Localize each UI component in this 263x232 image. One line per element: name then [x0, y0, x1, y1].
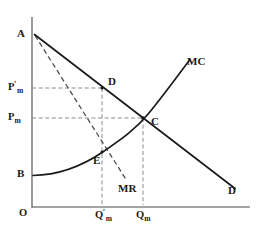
x-tick-label-qm-prime: Q′m	[95, 210, 112, 221]
x-tick-qm-prime-mark: ′	[103, 207, 106, 217]
y-tick-label-pm-prime: P′m	[8, 82, 23, 93]
x-tick-label-qm: Qm	[136, 210, 150, 221]
y-tick-pm-sub: m	[14, 116, 20, 125]
point-label-c: C	[151, 116, 159, 127]
y-tick-label-pm: Pm	[8, 112, 21, 123]
x-tick-qm-sub: m	[144, 214, 150, 223]
curve-label-mc: MC	[187, 56, 205, 67]
point-c-marker	[141, 116, 145, 120]
curve-label-demand: D	[228, 185, 236, 196]
point-label-d: D	[108, 76, 116, 87]
plot-canvas	[0, 0, 263, 232]
curve-label-mr: MR	[118, 183, 136, 194]
x-tick-qm-main: Q	[136, 209, 144, 220]
point-label-a: A	[17, 28, 25, 39]
x-tick-qm-prime-main: Q	[95, 209, 103, 220]
origin-label: O	[19, 208, 27, 219]
x-tick-qm-prime-sub: m	[106, 214, 112, 223]
economics-diagram: A B C D E MC MR D O P′m Pm Q′m Qm	[0, 0, 263, 232]
point-label-b: B	[17, 168, 24, 179]
axis-group	[32, 17, 251, 208]
point-label-e: E	[93, 155, 100, 166]
marginal-revenue-curve	[35, 36, 127, 182]
point-d-marker	[101, 87, 104, 90]
y-tick-pm-prime-sub: m	[17, 86, 23, 95]
point-e-marker	[101, 151, 104, 154]
intersection-dot-group	[101, 87, 145, 154]
